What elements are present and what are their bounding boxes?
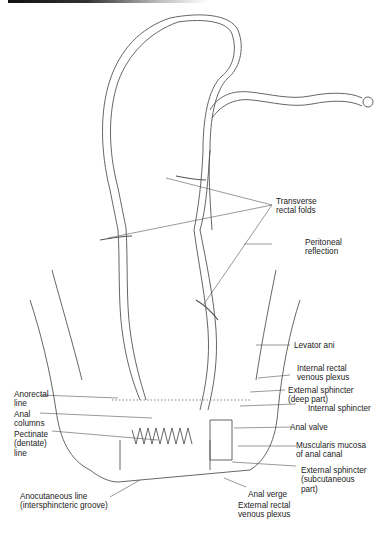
label-anorectal-line: Anorectal line <box>14 390 49 409</box>
label-external-sphincter-deep: External sphincter (deep part) <box>288 386 354 405</box>
label-pectinate-line: Pectinate (dentate) line <box>14 430 48 458</box>
label-internal-rectal-venous-plexus: Internal rectal venous plexus <box>297 364 349 383</box>
label-muscularis-mucosa: Muscularis mucosa of anal canal <box>296 441 366 460</box>
label-anal-columns: Anal columns <box>14 410 45 429</box>
label-levator-ani: Levator ani <box>294 341 335 350</box>
label-transverse-rectal-folds: Transverse rectal folds <box>276 197 317 216</box>
label-anocutaneous-line: Anocutaneous line (intersphincteric groo… <box>20 492 108 511</box>
label-internal-sphincter: Internal sphincter <box>308 404 371 413</box>
label-external-sphincter-subcutaneous: External sphincter (subcutaneous part) <box>301 466 367 494</box>
label-anal-verge: Anal verge <box>248 490 287 499</box>
label-external-rectal-venous-plexus: External rectal venous plexus <box>238 501 290 520</box>
label-anal-valve: Anal valve <box>290 423 328 432</box>
label-peritoneal-reflection: Peritoneal reflection <box>305 238 342 257</box>
